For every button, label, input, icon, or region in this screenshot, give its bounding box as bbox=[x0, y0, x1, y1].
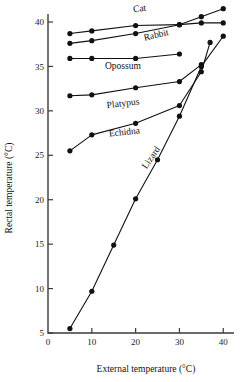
data-point bbox=[89, 289, 94, 294]
data-point bbox=[89, 56, 94, 61]
data-point bbox=[89, 132, 94, 137]
data-point bbox=[199, 14, 204, 19]
data-point bbox=[67, 41, 72, 46]
series-line bbox=[70, 36, 223, 328]
series-label-cat: Cat bbox=[132, 3, 147, 15]
y-tick-label: 5 bbox=[40, 328, 45, 338]
chart-figure: 510152025303540010203040 CatRabbitOpossu… bbox=[0, 0, 240, 382]
data-point bbox=[89, 38, 94, 43]
data-point bbox=[177, 79, 182, 84]
data-point bbox=[177, 114, 182, 119]
x-tick-label: 20 bbox=[131, 337, 141, 347]
data-point bbox=[208, 40, 213, 45]
data-point bbox=[67, 93, 72, 98]
data-point bbox=[199, 64, 204, 69]
series-label-echidna: Echidna bbox=[108, 125, 141, 138]
data-point bbox=[67, 148, 72, 153]
data-point bbox=[89, 28, 94, 33]
series-opossum bbox=[67, 51, 182, 61]
y-tick-label: 25 bbox=[35, 150, 45, 160]
data-point bbox=[89, 92, 94, 97]
data-point bbox=[67, 31, 72, 36]
series-lizard bbox=[67, 34, 226, 332]
data-point bbox=[199, 20, 204, 25]
rectal-vs-external-temperature-line-chart: 510152025303540010203040 CatRabbitOpossu… bbox=[0, 0, 240, 382]
data-point bbox=[111, 242, 116, 247]
y-tick-label: 30 bbox=[35, 106, 45, 116]
y-tick-label: 10 bbox=[35, 284, 45, 294]
x-tick-label: 10 bbox=[87, 337, 97, 347]
series-line bbox=[70, 54, 180, 58]
y-tick-label: 40 bbox=[35, 17, 45, 27]
x-tick-label: 0 bbox=[46, 337, 51, 347]
y-tick-label: 35 bbox=[35, 62, 45, 72]
series-label-platypus: Platypus bbox=[106, 96, 140, 110]
data-point bbox=[221, 6, 226, 11]
data-point bbox=[133, 85, 138, 90]
data-point bbox=[67, 326, 72, 331]
series-label-rabbit: Rabbit bbox=[143, 27, 170, 43]
y-axis-title: Rectal temperature (°C) bbox=[4, 143, 15, 234]
data-point bbox=[177, 22, 182, 27]
x-axis-title: External temperature (°C) bbox=[97, 364, 196, 375]
data-point bbox=[177, 103, 182, 108]
data-point bbox=[221, 20, 226, 25]
data-point bbox=[67, 56, 72, 61]
axis-spines bbox=[48, 14, 234, 333]
series-label-opossum: Opossum bbox=[105, 61, 142, 71]
y-tick-label: 15 bbox=[35, 239, 45, 249]
x-tick-label: 40 bbox=[219, 337, 229, 347]
x-tick-label: 30 bbox=[175, 337, 185, 347]
data-point bbox=[133, 31, 138, 36]
data-point bbox=[221, 34, 226, 39]
data-point bbox=[133, 23, 138, 28]
axes-group bbox=[48, 14, 234, 333]
y-tick-label: 20 bbox=[35, 195, 45, 205]
data-point bbox=[133, 196, 138, 201]
data-point bbox=[177, 51, 182, 56]
series-echidna bbox=[67, 40, 212, 154]
